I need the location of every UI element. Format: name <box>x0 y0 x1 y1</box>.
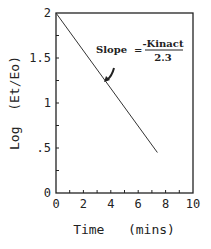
series-line <box>56 13 157 153</box>
chart: 0246810 0.511.52 Time (mins) Log (Et/Eo)… <box>0 0 211 249</box>
y-tick-labels: 0.511.52 <box>29 6 51 200</box>
slope-numerator: -Kinact <box>142 38 183 49</box>
x-axis-title: Time (mins) <box>73 222 175 237</box>
y-axis-title: Log (Et/Eo) <box>7 56 22 150</box>
data-line <box>56 13 157 153</box>
x-tick-label: 2 <box>80 197 87 211</box>
slope-annotation: Slope = -Kinact 2.3 <box>96 38 184 82</box>
x-tick-label: 8 <box>162 197 169 211</box>
y-tick-label: 0 <box>44 186 51 200</box>
y-tick-label: 2 <box>44 6 51 20</box>
y-tick-label: .5 <box>37 141 51 155</box>
x-tick-label: 10 <box>186 197 200 211</box>
y-tick-label: 1.5 <box>29 51 51 65</box>
slope-denominator: 2.3 <box>154 52 171 63</box>
y-tick-label: 1 <box>44 96 51 110</box>
x-tick-label: 0 <box>52 197 59 211</box>
x-tick-label: 6 <box>135 197 142 211</box>
x-tick-labels: 0246810 <box>52 197 200 211</box>
slope-label: Slope = <box>96 44 142 55</box>
x-tick-label: 4 <box>107 197 114 211</box>
